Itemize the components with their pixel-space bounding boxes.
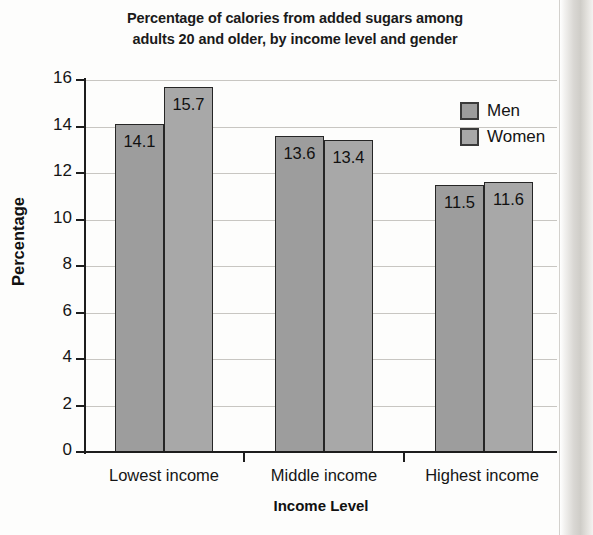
y-tick-4 — [76, 358, 85, 360]
y-tick-10 — [76, 219, 85, 221]
y-tick-label-16: 16 — [18, 68, 72, 88]
y-tick-16 — [76, 79, 85, 81]
y-tick-2 — [76, 405, 85, 407]
legend-item-women[interactable]: Women — [460, 124, 545, 150]
bar-value-women-middle-income: 13.4 — [325, 148, 372, 167]
x-tick-2 — [403, 452, 405, 462]
bar-men-middle-income[interactable]: 13.6 — [275, 136, 324, 452]
page-gutter-shadow — [560, 0, 593, 535]
bar-value-women-highest-income: 11.6 — [485, 190, 532, 209]
y-tick-label-4: 4 — [18, 347, 72, 367]
bar-men-highest-income[interactable]: 11.5 — [435, 185, 484, 452]
bar-value-men-highest-income: 11.5 — [436, 193, 483, 212]
y-tick-12 — [76, 172, 85, 174]
chart-title: Percentage of calories from added sugars… — [45, 8, 545, 50]
y-axis-title: Percentage — [9, 142, 28, 342]
bar-value-men-middle-income: 13.6 — [276, 144, 323, 163]
legend-item-men[interactable]: Men — [460, 98, 545, 124]
y-tick-label-2: 2 — [18, 394, 72, 414]
legend-label-women: Women — [487, 127, 545, 147]
y-tick-6 — [76, 312, 85, 314]
y-tick-0 — [76, 451, 85, 453]
legend-label-men: Men — [487, 101, 520, 121]
gridline-16 — [85, 80, 557, 81]
x-axis-line — [84, 451, 557, 453]
bar-value-women-lowest-income: 15.7 — [165, 95, 212, 114]
bar-men-lowest-income[interactable]: 14.1 — [115, 124, 164, 452]
chart-title-line-2: adults 20 and older, by income level and… — [45, 29, 545, 50]
y-tick-label-14: 14 — [18, 115, 72, 135]
bar-women-middle-income[interactable]: 13.4 — [324, 140, 373, 452]
bar-women-highest-income[interactable]: 11.6 — [484, 182, 533, 452]
chart-legend: Men Women — [460, 98, 545, 150]
chart-title-line-1: Percentage of calories from added sugars… — [45, 8, 545, 29]
x-tick-1 — [243, 452, 245, 462]
y-tick-8 — [76, 265, 85, 267]
y-tick-label-0: 0 — [18, 440, 72, 460]
y-tick-14 — [76, 126, 85, 128]
bar-value-men-lowest-income: 14.1 — [116, 132, 163, 151]
legend-swatch-women-icon — [460, 128, 479, 146]
legend-swatch-men-icon — [460, 102, 479, 120]
bar-women-lowest-income[interactable]: 15.7 — [164, 87, 213, 452]
x-axis-title: Income Level — [85, 497, 557, 514]
x-category-label-highest-income: Highest income — [382, 466, 582, 485]
